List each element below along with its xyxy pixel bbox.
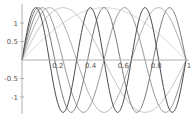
y-tick-label: 0.5	[7, 38, 18, 46]
x-tick-label: 0.6	[118, 62, 130, 70]
y-tick-label: -0.5	[4, 75, 18, 83]
x-tick-label: 0.4	[85, 62, 97, 70]
curve-k-1	[22, 8, 186, 60]
y-axis-ticks: 10.5-0.5-1	[4, 20, 24, 102]
line-chart: 0.20.40.60.81 10.5-0.5-1	[0, 0, 193, 117]
x-tick-label: 0.2	[52, 62, 63, 70]
x-tick-label: 0.8	[151, 62, 162, 70]
y-tick-label: -1	[11, 94, 18, 102]
y-tick-label: 1	[14, 20, 18, 28]
x-tick-label: 1	[187, 62, 191, 70]
